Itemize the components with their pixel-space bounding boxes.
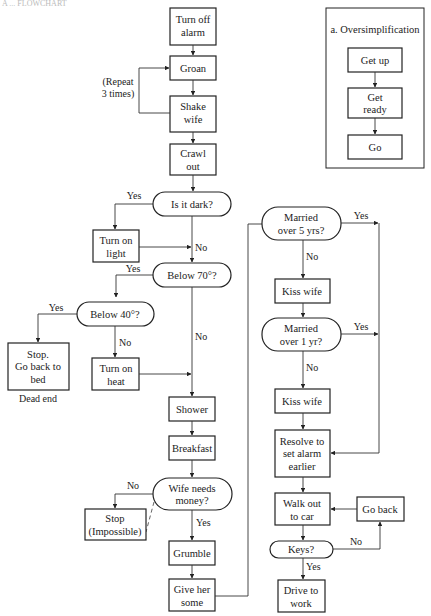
svg-text:Turn on: Turn on [99, 235, 133, 246]
header-text: A ... FLOWCHART [2, 0, 67, 8]
node-turn-on-heat: Turn on heat [92, 358, 139, 390]
yes-label: Yes [126, 263, 141, 274]
svg-text:(Impossible): (Impossible) [88, 526, 142, 538]
svg-text:work: work [290, 598, 312, 609]
svg-text:Drive to: Drive to [284, 585, 319, 596]
no-label: No [306, 362, 318, 373]
node-drive-to-work: Drive to work [278, 580, 325, 612]
decision-is-it-dark: Is it dark? [153, 192, 231, 216]
yes-label: Yes [196, 517, 211, 528]
decision-keys: Keys? [270, 541, 333, 558]
node-crawl-out: Crawl out [170, 144, 216, 175]
svg-text:Shower: Shower [176, 404, 209, 415]
repeat-label-2: 3 times) [102, 88, 135, 100]
svg-text:Crawl: Crawl [180, 148, 206, 159]
svg-text:Grumble: Grumble [173, 548, 211, 559]
svg-text:light: light [106, 248, 125, 259]
node-breakfast: Breakfast [169, 436, 215, 460]
node-turn-off-alarm: Turn off alarm [170, 8, 216, 45]
inset-step-get-up: Get up [361, 55, 389, 66]
inset-step-ready: ready [363, 104, 387, 115]
svg-text:Turn on: Turn on [99, 363, 133, 374]
node-groan: Groan [170, 56, 216, 80]
no-label: No [127, 480, 139, 491]
svg-text:some: some [181, 597, 204, 608]
svg-text:Give her: Give her [174, 584, 211, 595]
yes-label: Yes [354, 210, 369, 221]
node-walk-out-to-car: Walk out to car [275, 493, 330, 525]
yes-label: Yes [354, 321, 369, 332]
node-stop-go-back-to-bed: Stop. Go back to bed [8, 343, 69, 390]
decision-below-70: Below 70°? [153, 263, 231, 287]
svg-text:earlier: earlier [289, 461, 316, 472]
yes-label: Yes [127, 190, 142, 201]
svg-text:bed: bed [30, 374, 46, 385]
node-resolve-set-alarm-earlier: Resolve to set alarm earlier [275, 430, 330, 477]
svg-text:over 5 yrs?: over 5 yrs? [278, 225, 325, 236]
node-kiss-wife-2: Kiss wife [275, 389, 330, 413]
svg-text:Kiss wife: Kiss wife [282, 286, 322, 297]
svg-text:Married: Married [284, 323, 319, 334]
svg-text:money?: money? [175, 495, 209, 506]
node-go-back: Go back [357, 497, 404, 521]
svg-text:Stop: Stop [105, 513, 124, 524]
inset-title: a. Oversimplification [330, 24, 420, 35]
svg-text:Below 40°?: Below 40°? [90, 309, 140, 320]
decision-below-40: Below 40°? [77, 302, 154, 326]
svg-text:Groan: Groan [180, 63, 207, 74]
no-label: No [195, 242, 207, 253]
svg-text:Below 70°?: Below 70°? [167, 270, 217, 281]
inset-step-go: Go [369, 142, 382, 153]
inset-oversimplification: a. Oversimplification Get up Get ready G… [326, 8, 424, 168]
node-turn-on-light: Turn on light [93, 230, 139, 262]
no-label: No [306, 251, 318, 262]
node-kiss-wife-1: Kiss wife [275, 279, 330, 303]
yes-label: Yes [306, 561, 321, 572]
svg-text:wife: wife [184, 114, 203, 125]
svg-text:Resolve to: Resolve to [280, 436, 325, 447]
node-give-her-some: Give her some [169, 579, 215, 611]
no-label: No [350, 536, 362, 547]
svg-text:Turn off: Turn off [176, 14, 211, 25]
svg-text:set alarm: set alarm [283, 448, 321, 459]
node-grumble: Grumble [169, 541, 215, 565]
decision-married-over-5-yrs: Married over 5 yrs? [262, 207, 341, 240]
svg-text:Go back: Go back [362, 504, 398, 515]
yes-label: Yes [49, 302, 64, 313]
svg-text:Shake: Shake [180, 101, 206, 112]
repeat-label: (Repeat [102, 76, 133, 88]
svg-text:Keys?: Keys? [288, 544, 315, 555]
no-label: No [195, 331, 207, 342]
svg-text:out: out [186, 161, 200, 172]
flowchart-figure: A ... FLOWCHART a. Oversimplification Ge… [0, 0, 431, 616]
svg-text:to car: to car [290, 511, 314, 522]
svg-text:Married: Married [284, 212, 319, 223]
svg-text:Is it dark?: Is it dark? [171, 199, 213, 210]
node-shower: Shower [169, 397, 215, 421]
svg-text:alarm: alarm [181, 27, 205, 38]
svg-text:Stop.: Stop. [27, 349, 49, 360]
svg-text:Breakfast: Breakfast [172, 443, 212, 454]
svg-text:Kiss wife: Kiss wife [282, 396, 322, 407]
svg-text:over 1 yr?: over 1 yr? [280, 336, 323, 347]
node-stop-impossible: Stop (Impossible) [85, 509, 146, 540]
svg-text:Walk out: Walk out [283, 498, 321, 509]
decision-married-over-1-yr: Married over 1 yr? [262, 318, 341, 351]
node-shake-wife: Shake wife [170, 96, 216, 132]
no-label: No [119, 337, 131, 348]
dead-end-label: Dead end [19, 393, 57, 404]
inset-step-get: Get [367, 92, 382, 103]
svg-text:Go back to: Go back to [15, 361, 61, 372]
svg-text:heat: heat [107, 376, 125, 387]
svg-text:Wife needs: Wife needs [168, 483, 215, 494]
decision-wife-needs-money: Wife needs money? [153, 478, 232, 510]
